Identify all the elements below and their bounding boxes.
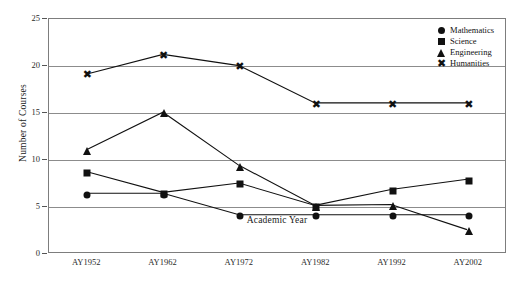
data-point-humanities-AY1972: ✖ [235, 62, 244, 71]
data-point-engineering-AY2002 [465, 227, 473, 235]
x-tick-label: AY1992 [377, 258, 406, 267]
data-point-humanities-AY1962: ✖ [159, 50, 168, 59]
series-line-humanities [87, 54, 467, 102]
y-tick-mark [42, 18, 47, 19]
series-line-science [87, 172, 467, 206]
data-point-mathematics-AY1972 [236, 213, 243, 220]
data-point-humanities-AY1952: ✖ [83, 70, 92, 79]
x-tick-label: AY1952 [72, 258, 101, 267]
y-tick-label: 25 [12, 14, 40, 23]
x-tick-label: AY2002 [454, 258, 483, 267]
data-point-mathematics-AY1992 [389, 213, 396, 220]
data-point-engineering-AY1992 [389, 202, 397, 210]
y-tick-mark [42, 159, 47, 160]
y-tick-label: 20 [12, 61, 40, 70]
data-point-mathematics-AY1982 [313, 213, 320, 220]
y-tick-label: 15 [12, 108, 40, 117]
data-point-engineering-AY1972 [236, 163, 244, 171]
y-tick-label: 10 [12, 155, 40, 164]
plot-area: ✖✖✖✖✖✖ Academic Year MathematicsScienceE… [48, 18, 506, 253]
x-tick-label: AY1982 [301, 258, 330, 267]
data-point-engineering-AY1982 [312, 203, 320, 211]
y-tick-mark [42, 65, 47, 66]
data-point-science-AY1992 [389, 188, 396, 195]
data-point-science-AY1952 [84, 170, 91, 177]
data-point-humanities-AY1992: ✖ [388, 99, 397, 108]
line-chart: Number of Courses 2520151050 ✖✖✖✖✖✖ Acad… [0, 0, 520, 288]
data-point-science-AY1972 [236, 181, 243, 188]
y-tick-label: 5 [12, 202, 40, 211]
data-point-humanities-AY2002: ✖ [464, 99, 473, 108]
data-point-humanities-AY1982: ✖ [312, 99, 321, 108]
data-point-science-AY1962 [160, 190, 167, 197]
data-point-mathematics-AY1952 [84, 191, 91, 198]
data-point-mathematics-AY2002 [465, 213, 472, 220]
data-point-science-AY2002 [465, 177, 472, 184]
x-tick-label: AY1972 [225, 258, 254, 267]
y-tick-label: 0 [12, 249, 40, 258]
data-point-engineering-AY1962 [160, 109, 168, 117]
x-tick-label: AY1962 [148, 258, 177, 267]
y-axis: 2520151050 [0, 18, 44, 253]
series-line-engineering [87, 112, 467, 229]
y-tick-mark [42, 206, 47, 207]
series-line-mathematics [87, 193, 467, 214]
series-lines [49, 19, 505, 252]
y-tick-mark [42, 112, 47, 113]
data-point-engineering-AY1952 [83, 147, 91, 155]
x-axis: AY1952AY1962AY1972AY1982AY1992AY2002 [48, 258, 506, 278]
y-tick-mark [42, 253, 47, 254]
